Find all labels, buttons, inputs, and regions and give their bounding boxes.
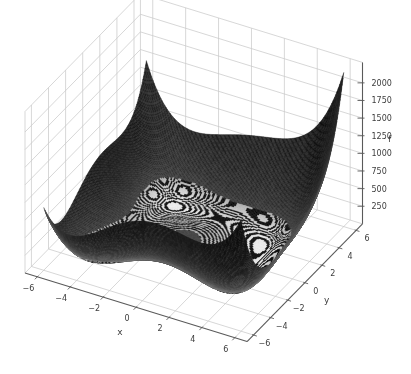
3d-surface-figure: x y f −6−4−20246−6−4−2024625050075010001… bbox=[0, 0, 411, 374]
surface-plot-canvas bbox=[0, 0, 411, 374]
